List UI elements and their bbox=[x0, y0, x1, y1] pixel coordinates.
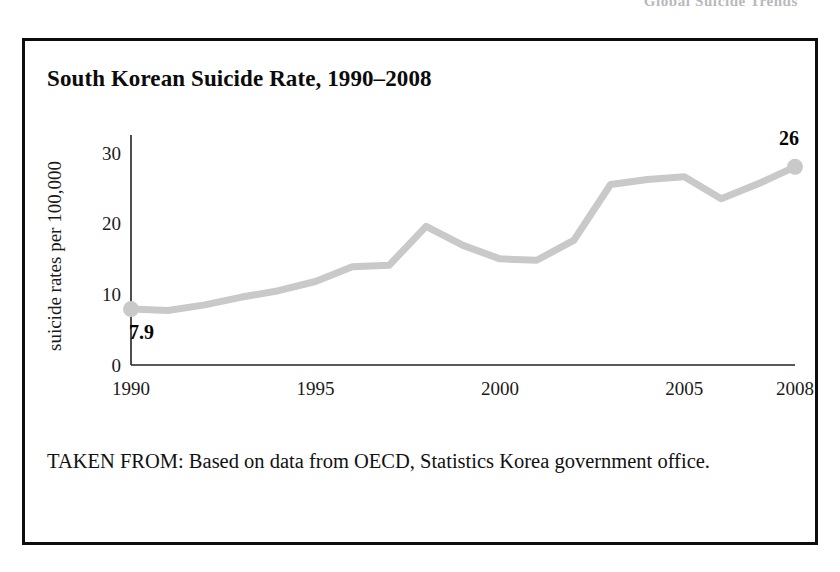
data-point-markers bbox=[123, 159, 803, 317]
y-tick-label: 20 bbox=[102, 213, 121, 234]
start-marker bbox=[123, 301, 139, 317]
line-chart: suicide rates per 100,000 0102030 199019… bbox=[25, 103, 815, 423]
x-tick-label: 2008 bbox=[776, 378, 814, 399]
figure-frame: South Korean Suicide Rate, 1990–2008 sui… bbox=[22, 38, 818, 545]
y-axis-title-text: suicide rates per 100,000 bbox=[44, 161, 65, 351]
y-tick-label: 0 bbox=[112, 355, 122, 376]
figure-title: South Korean Suicide Rate, 1990–2008 bbox=[47, 66, 432, 92]
x-tick-label: 1990 bbox=[112, 378, 150, 399]
y-tick-label: 10 bbox=[102, 284, 121, 305]
end-marker bbox=[787, 159, 803, 175]
start-value-label: 7.9 bbox=[129, 321, 154, 343]
axis-lines bbox=[131, 135, 795, 365]
end-value-label: 26 bbox=[779, 127, 799, 149]
y-tick-label: 30 bbox=[102, 143, 121, 164]
source-note: TAKEN FROM: Based on data from OECD, Sta… bbox=[47, 446, 787, 477]
x-tick-label: 1995 bbox=[296, 378, 334, 399]
y-axis-tick-labels: 0102030 bbox=[102, 143, 121, 376]
y-axis-title: suicide rates per 100,000 bbox=[44, 161, 65, 351]
x-axis-tick-labels: 19901995200020052008 bbox=[112, 378, 814, 399]
data-point-annotations: 7.926 bbox=[129, 127, 799, 343]
running-page-header: Global Suicide Trends bbox=[644, 0, 798, 10]
data-series-line bbox=[131, 167, 795, 311]
chart-plot-area: suicide rates per 100,000 0102030 199019… bbox=[25, 103, 815, 423]
x-tick-label: 2005 bbox=[665, 378, 703, 399]
x-tick-label: 2000 bbox=[481, 378, 519, 399]
